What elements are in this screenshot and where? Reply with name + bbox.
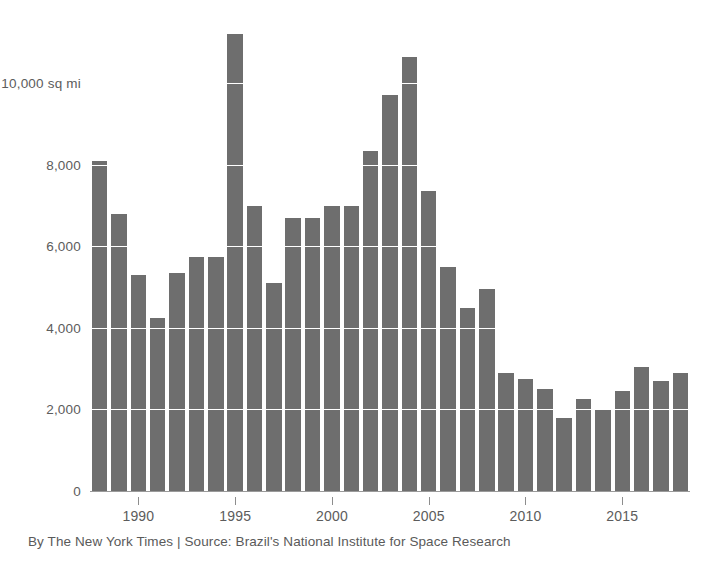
y-tick-label: 8,000	[46, 157, 81, 172]
bar	[344, 206, 359, 491]
bar	[227, 34, 242, 491]
bar-series	[90, 18, 690, 491]
bar	[440, 267, 455, 491]
plot-area: 02,0004,0006,0008,00010,000 sq mi	[90, 18, 690, 491]
bar	[576, 399, 591, 491]
bar	[285, 218, 300, 491]
chart-figure: 02,0004,0006,0008,00010,000 sq mi 199019…	[0, 0, 706, 583]
x-tick-label: 1995	[219, 508, 251, 524]
bar	[266, 283, 281, 491]
bar	[653, 381, 668, 491]
y-tick-label: 4,000	[46, 320, 81, 335]
bar	[247, 206, 262, 491]
x-tick	[138, 497, 139, 505]
bar	[518, 379, 533, 491]
bar	[324, 206, 339, 491]
x-tick	[429, 497, 430, 505]
bar	[479, 289, 494, 491]
bar	[421, 191, 436, 491]
bar	[673, 373, 688, 491]
bar	[402, 57, 417, 491]
y-tick-label: 0	[73, 484, 81, 499]
y-tick-label: 6,000	[46, 239, 81, 254]
bar	[615, 391, 630, 491]
x-tick	[622, 497, 623, 505]
bar	[169, 273, 184, 491]
x-tick-label: 2000	[316, 508, 348, 524]
bar	[131, 275, 146, 491]
bar	[556, 418, 571, 491]
x-tick-label: 2010	[509, 508, 541, 524]
y-tick-label: 10,000 sq mi	[1, 76, 81, 91]
bar	[460, 308, 475, 491]
x-tick	[235, 497, 236, 505]
bar	[208, 257, 223, 491]
x-tick	[525, 497, 526, 505]
bar	[111, 214, 126, 491]
x-tick	[332, 497, 333, 505]
chart-credit-caption: By The New York Times | Source: Brazil's…	[28, 534, 511, 549]
bar	[189, 257, 204, 491]
x-tick-label: 2015	[606, 508, 638, 524]
bar	[537, 389, 552, 491]
y-tick-label: 2,000	[46, 402, 81, 417]
bar	[382, 95, 397, 491]
bar	[363, 151, 378, 491]
x-tick-label: 2005	[413, 508, 445, 524]
bar	[305, 218, 320, 491]
bar	[595, 409, 610, 491]
bar	[498, 373, 513, 491]
x-tick-label: 1990	[122, 508, 154, 524]
bar	[150, 318, 165, 491]
bar	[92, 161, 107, 491]
bar	[634, 367, 649, 491]
